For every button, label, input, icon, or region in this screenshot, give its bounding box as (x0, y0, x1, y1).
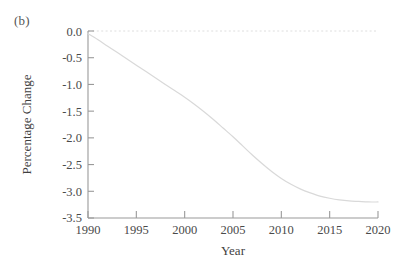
x-tick-label: 1995 (124, 223, 149, 237)
y-tick-marks (88, 31, 94, 218)
x-tick-labels: 1990 1995 2000 2005 2010 2015 2020 (76, 223, 391, 237)
y-axis-title: Percentage Change (19, 74, 34, 174)
y-tick-label: -2.5 (62, 158, 82, 172)
y-tick-label: -3.0 (62, 185, 82, 199)
y-tick-label: 0.0 (66, 25, 82, 39)
y-tick-label: -1.0 (62, 78, 82, 92)
line-chart: 0.0 -0.5 -1.0 -1.5 -2.0 -2.5 -3.0 -3.5 1… (0, 0, 420, 277)
y-tick-label: -0.5 (62, 51, 82, 65)
y-tick-label: -1.5 (62, 105, 82, 119)
y-tick-label: -2.0 (62, 131, 82, 145)
x-tick-label: 2020 (366, 223, 391, 237)
x-tick-label: 2015 (317, 223, 342, 237)
y-tick-labels: 0.0 -0.5 -1.0 -1.5 -2.0 -2.5 -3.0 -3.5 (62, 25, 82, 226)
x-tick-label: 1990 (76, 223, 101, 237)
figure-panel-b: (b) 0.0 (0, 0, 420, 277)
x-tick-marks (88, 211, 378, 218)
x-tick-label: 2010 (269, 223, 294, 237)
x-tick-label: 2000 (172, 223, 197, 237)
x-tick-label: 2005 (221, 223, 246, 237)
data-series-line (88, 34, 378, 202)
x-axis-title: Year (221, 243, 246, 258)
